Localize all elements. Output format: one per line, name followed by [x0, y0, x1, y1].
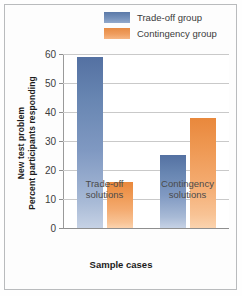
y-tick-label: 50 [45, 78, 56, 89]
y-tick-mark [59, 83, 63, 84]
x-axis-title: Sample cases [0, 259, 242, 270]
chart-figure: Trade-off group Contingency group New te… [0, 0, 242, 296]
legend-swatch-blue [104, 12, 130, 23]
y-tick-mark [59, 54, 63, 55]
bar-trade-off-solutions-trade-off-group [77, 57, 103, 228]
chart-legend: Trade-off group Contingency group [104, 10, 232, 42]
y-tick-label: 10 [45, 194, 56, 205]
x-tick-label-line-2: solutions [169, 189, 207, 200]
y-tick-mark [59, 141, 63, 142]
y-axis-title-line-1: New test problem [16, 107, 26, 179]
y-tick-label: 60 [45, 49, 56, 60]
y-tick-mark [59, 228, 63, 229]
y-tick-mark [59, 112, 63, 113]
x-tick-label-line-1: Contingency [161, 178, 214, 189]
x-tick-label-line-2: solutions [86, 189, 124, 200]
bar-contingency-solutions-contingency-group [190, 118, 216, 228]
plot-area: 0102030405060 [63, 54, 229, 229]
x-tick-label-trade-off-solutions: Trade-off solutions [63, 178, 146, 200]
x-tick-label-contingency-solutions: Contingency solutions [146, 178, 229, 200]
y-tick-mark [59, 170, 63, 171]
legend-label-contingency-group: Contingency group [137, 28, 217, 39]
y-tick-label: 40 [45, 107, 56, 118]
y-axis-title: New test problem Percent participants re… [10, 48, 44, 238]
y-tick-label: 20 [45, 165, 56, 176]
y-tick-label: 30 [45, 136, 56, 147]
y-tick-label: 0 [50, 223, 56, 234]
x-tick-label-line-1: Trade-off [85, 178, 123, 189]
y-axis-title-line-2: Percent participants responding [27, 76, 37, 209]
gridline [63, 54, 229, 55]
legend-item-trade-off-group: Trade-off group [104, 10, 232, 24]
legend-label-trade-off-group: Trade-off group [137, 12, 202, 23]
legend-item-contingency-group: Contingency group [104, 26, 232, 40]
legend-swatch-orange [104, 28, 130, 39]
